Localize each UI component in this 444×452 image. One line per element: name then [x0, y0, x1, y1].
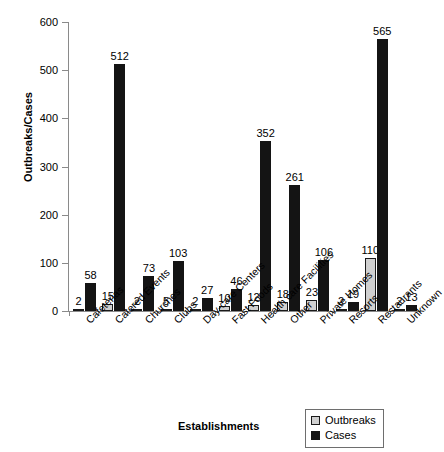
x-axis-tick	[69, 311, 70, 316]
bar-cases	[377, 39, 388, 311]
y-axis-tick	[62, 70, 69, 71]
bar-group: 15512	[98, 22, 127, 311]
legend-label-cases: Cases	[325, 430, 356, 441]
legend-item-cases: Cases	[311, 428, 376, 443]
bar-group: 258	[69, 22, 98, 311]
plot-area: 2581551227351032271046123521826123106219…	[69, 22, 419, 311]
y-axis-tick-label: 0	[20, 306, 58, 316]
y-axis-tick	[62, 263, 69, 264]
bar-cases	[114, 64, 125, 311]
legend-swatch-cases	[311, 431, 320, 440]
bar-group: 18261	[273, 22, 302, 311]
y-axis-tick-label: 600	[20, 17, 58, 27]
y-axis-tick	[62, 118, 69, 119]
bar-group: 1046	[215, 22, 244, 311]
legend-swatch-outbreaks	[311, 416, 320, 425]
y-axis-tick	[62, 215, 69, 216]
legend-label-outbreaks: Outbreaks	[325, 415, 376, 426]
y-axis-tick	[62, 22, 69, 23]
bar-group: 273	[127, 22, 156, 311]
legend-item-outbreaks: Outbreaks	[311, 413, 376, 428]
y-axis-tick-label: 200	[20, 210, 58, 220]
bar-group: 227	[186, 22, 215, 311]
y-axis-title: Outbreaks/Cases	[22, 67, 34, 207]
bar-group: 213	[390, 22, 419, 311]
y-axis-tick-label: 500	[20, 65, 58, 75]
y-axis-tick-label: 100	[20, 258, 58, 268]
chart-legend: Outbreaks Cases	[305, 409, 384, 448]
y-axis-tick-label: 400	[20, 113, 58, 123]
y-axis-tick	[62, 167, 69, 168]
y-axis-tick-label: 300	[20, 162, 58, 172]
bar-outbreaks	[73, 309, 84, 311]
bar-group: 219	[332, 22, 361, 311]
x-axis-title: Establishments	[178, 420, 259, 432]
